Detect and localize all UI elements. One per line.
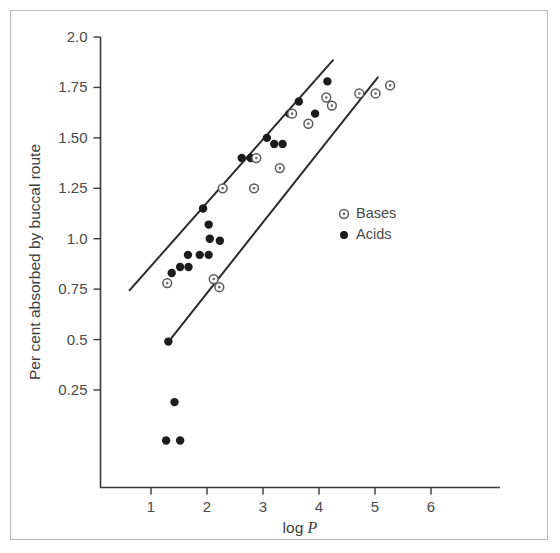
point-base-center-10 [331, 104, 334, 107]
point-base-center-8 [307, 122, 310, 125]
y-tick-label-4: 1.25 [58, 179, 87, 196]
y-tick-label-5: 1.50 [58, 129, 87, 146]
point-acid-17 [270, 140, 278, 148]
point-acid-16 [263, 134, 271, 142]
point-acid-4 [168, 269, 176, 277]
point-acid-11 [216, 237, 224, 245]
trend-lines-group [130, 60, 378, 342]
point-acid-9 [204, 251, 212, 259]
upper-boundary-line [130, 60, 333, 290]
legend-label-acids: Acids [356, 226, 391, 242]
legend-label-bases: Bases [356, 205, 396, 221]
point-acid-13 [199, 204, 207, 212]
x-axis-title: log P [283, 519, 318, 536]
point-base-center-7 [291, 112, 294, 115]
point-base-center-4 [253, 187, 256, 190]
scatter-plot: 123456 0.250.50.751.01.251.501.752.0 Bas… [0, 0, 560, 553]
point-base-center-6 [279, 167, 282, 170]
y-tick-label-3: 1.0 [67, 230, 88, 247]
point-acid-18 [278, 140, 286, 148]
y-tick-label-7: 2.0 [67, 28, 88, 45]
point-base-center-2 [218, 286, 221, 289]
y-tick-label-2: 0.75 [58, 280, 87, 297]
legend-marker-bases-center [343, 213, 346, 216]
x-tick-labels-group: 123456 [147, 498, 435, 515]
x-tick-label-1: 2 [203, 498, 211, 515]
point-base-center-12 [374, 92, 377, 95]
data-points-group [162, 77, 395, 444]
y-tick-labels-group: 0.250.50.751.01.251.501.752.0 [58, 28, 87, 398]
y-tick-label-1: 0.5 [67, 331, 88, 348]
point-base-center-9 [325, 96, 328, 99]
point-base-center-13 [389, 84, 392, 87]
y-tick-label-0: 0.25 [58, 381, 87, 398]
x-tick-label-0: 1 [147, 498, 155, 515]
point-acid-20 [295, 97, 303, 105]
point-acid-21 [311, 109, 319, 117]
series-acids [162, 77, 332, 444]
point-acid-1 [176, 436, 184, 444]
legend-marker-acids [340, 231, 348, 239]
y-tick-label-6: 1.75 [58, 78, 87, 95]
y-axis-title: Per cent absorbed by buccal route [26, 144, 43, 380]
point-acid-12 [204, 220, 212, 228]
point-base-center-1 [212, 278, 215, 281]
series-bases [163, 81, 395, 292]
point-acid-3 [164, 337, 172, 345]
x-tick-label-4: 5 [371, 498, 379, 515]
x-tick-label-5: 6 [427, 498, 435, 515]
x-tick-label-2: 3 [259, 498, 267, 515]
point-acid-5 [176, 263, 184, 271]
point-base-center-11 [358, 92, 361, 95]
point-acid-6 [184, 263, 192, 271]
tick-marks-group [94, 37, 432, 495]
point-acid-10 [206, 235, 214, 243]
point-acid-14 [238, 154, 246, 162]
point-base-center-0 [166, 282, 169, 285]
point-acid-7 [184, 251, 192, 259]
point-base-center-3 [221, 187, 224, 190]
point-acid-0 [162, 436, 170, 444]
legend: BasesAcids [340, 205, 397, 242]
point-acid-22 [323, 77, 331, 85]
point-acid-8 [196, 251, 204, 259]
point-base-center-5 [255, 157, 258, 160]
point-acid-2 [170, 398, 178, 406]
figure-container: 123456 0.250.50.751.01.251.501.752.0 Bas… [0, 0, 560, 553]
x-tick-label-3: 4 [315, 498, 323, 515]
